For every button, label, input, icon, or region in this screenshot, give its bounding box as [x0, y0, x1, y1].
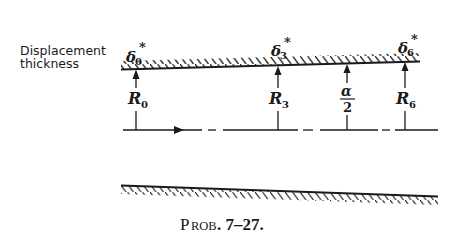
delta0-star: * — [139, 40, 146, 55]
alpha-arrowhead-icon — [344, 64, 351, 73]
flow-direction-arrow-icon — [174, 126, 184, 134]
station-3: R 3 δ 3 * — [268, 35, 291, 130]
r3-arrowhead-icon — [275, 66, 282, 75]
alpha-numerator: α — [341, 83, 352, 99]
station-6: R 6 δ 6 * — [395, 32, 418, 130]
delta6-subscript: 6 — [407, 47, 414, 58]
r6-arrowhead-icon — [402, 62, 409, 71]
r3-subscript: 3 — [282, 99, 289, 110]
alpha-denominator: 2 — [343, 100, 352, 115]
caption-number: . 7–27. — [217, 215, 264, 234]
displacement-thickness-label: Displacement thickness — [20, 43, 106, 71]
r6-subscript: 6 — [409, 99, 416, 110]
delta3-star: * — [284, 35, 291, 50]
figure-caption: P ROB . 7–27. — [180, 215, 264, 234]
caption-prefix-small: ROB — [191, 219, 217, 233]
r0-subscript: 0 — [141, 99, 148, 110]
r0-symbol: R — [127, 89, 141, 108]
r3-symbol: R — [268, 89, 282, 108]
diffuser-diagram: Displacement thickness R 0 δ 0 * — [0, 0, 458, 252]
label-line-2: thickness — [20, 56, 79, 71]
half-angle-station: α 2 — [340, 64, 355, 130]
delta6-star: * — [411, 32, 418, 47]
delta0-subscript: 0 — [135, 56, 142, 67]
delta3-subscript: 3 — [280, 50, 287, 61]
bottom-wall — [121, 186, 438, 206]
station-0: R 0 δ 0 * — [125, 40, 148, 130]
centerline — [123, 126, 438, 134]
r0-arrowhead-icon — [133, 70, 140, 80]
caption-prefix-large: P — [180, 215, 189, 234]
r6-symbol: R — [395, 89, 409, 108]
